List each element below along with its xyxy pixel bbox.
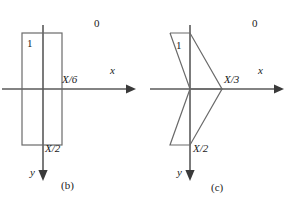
panel-b-y-extent-label: X/2 (45, 143, 60, 154)
panel-c-group (150, 25, 284, 181)
panel-b-x-axis-label: x (110, 65, 115, 76)
panel-c-caption: (c) (211, 182, 223, 193)
panel-b-y-axis-arrowhead (38, 170, 47, 181)
panel-b-region-value-label: 1 (27, 38, 33, 49)
figure-canvas (0, 0, 294, 199)
panel-c-x-axis-label: x (258, 65, 263, 76)
figure-container: 1 0 X/6 X/2 x y (b) 1 0 X/3 X/2 x y (c) (0, 0, 294, 199)
panel-b-group (2, 25, 136, 181)
panel-c-y-axis-label: y (177, 167, 182, 178)
panel-b-caption: (b) (61, 180, 74, 191)
panel-c-y-axis-arrowhead (185, 170, 194, 181)
panel-c-x-extent-label: X/3 (224, 74, 239, 85)
panel-b-exterior-value-label: 0 (94, 18, 100, 29)
panel-b-y-axis-label: y (30, 167, 35, 178)
panel-c-region-value-label: 1 (176, 40, 182, 51)
panel-b-x-axis-arrowhead (126, 85, 136, 94)
panel-c-y-extent-label: X/2 (193, 143, 208, 154)
panel-b-x-extent-label: X/6 (62, 74, 77, 85)
panel-c-exterior-value-label: 0 (252, 18, 258, 29)
panel-c-region-lower-lobe (170, 89, 222, 145)
panel-c-x-axis-arrowhead (274, 85, 284, 94)
